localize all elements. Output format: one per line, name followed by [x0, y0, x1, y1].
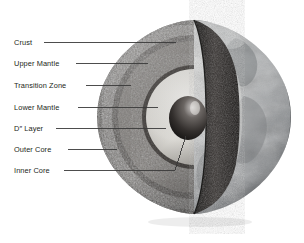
label-transition-zone: Transition Zone	[14, 81, 66, 90]
inner-core-sphere	[169, 96, 207, 140]
earth-cutaway-illustration	[0, 0, 304, 243]
earth-structure-figure: Crust Upper Mantle Transition Zone Lower…	[0, 0, 304, 243]
label-lower-mantle: Lower Mantle	[14, 103, 59, 112]
label-crust: Crust	[14, 38, 32, 47]
label-inner-core: Inner Core	[14, 166, 50, 175]
label-outer-core: Outer Core	[14, 145, 51, 154]
label-upper-mantle: Upper Mantle	[14, 59, 59, 68]
globe-shadow	[148, 217, 252, 227]
label-d-layer: D″ Layer	[14, 124, 43, 133]
